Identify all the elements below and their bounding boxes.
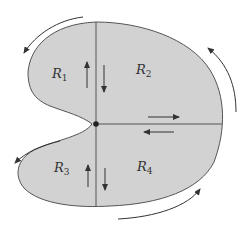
region-diagram: R1 R2 R3 R4	[0, 0, 249, 230]
junction-dot	[93, 121, 99, 127]
region-shape	[18, 22, 223, 207]
diagram-canvas: R1 R2 R3 R4	[0, 0, 249, 230]
